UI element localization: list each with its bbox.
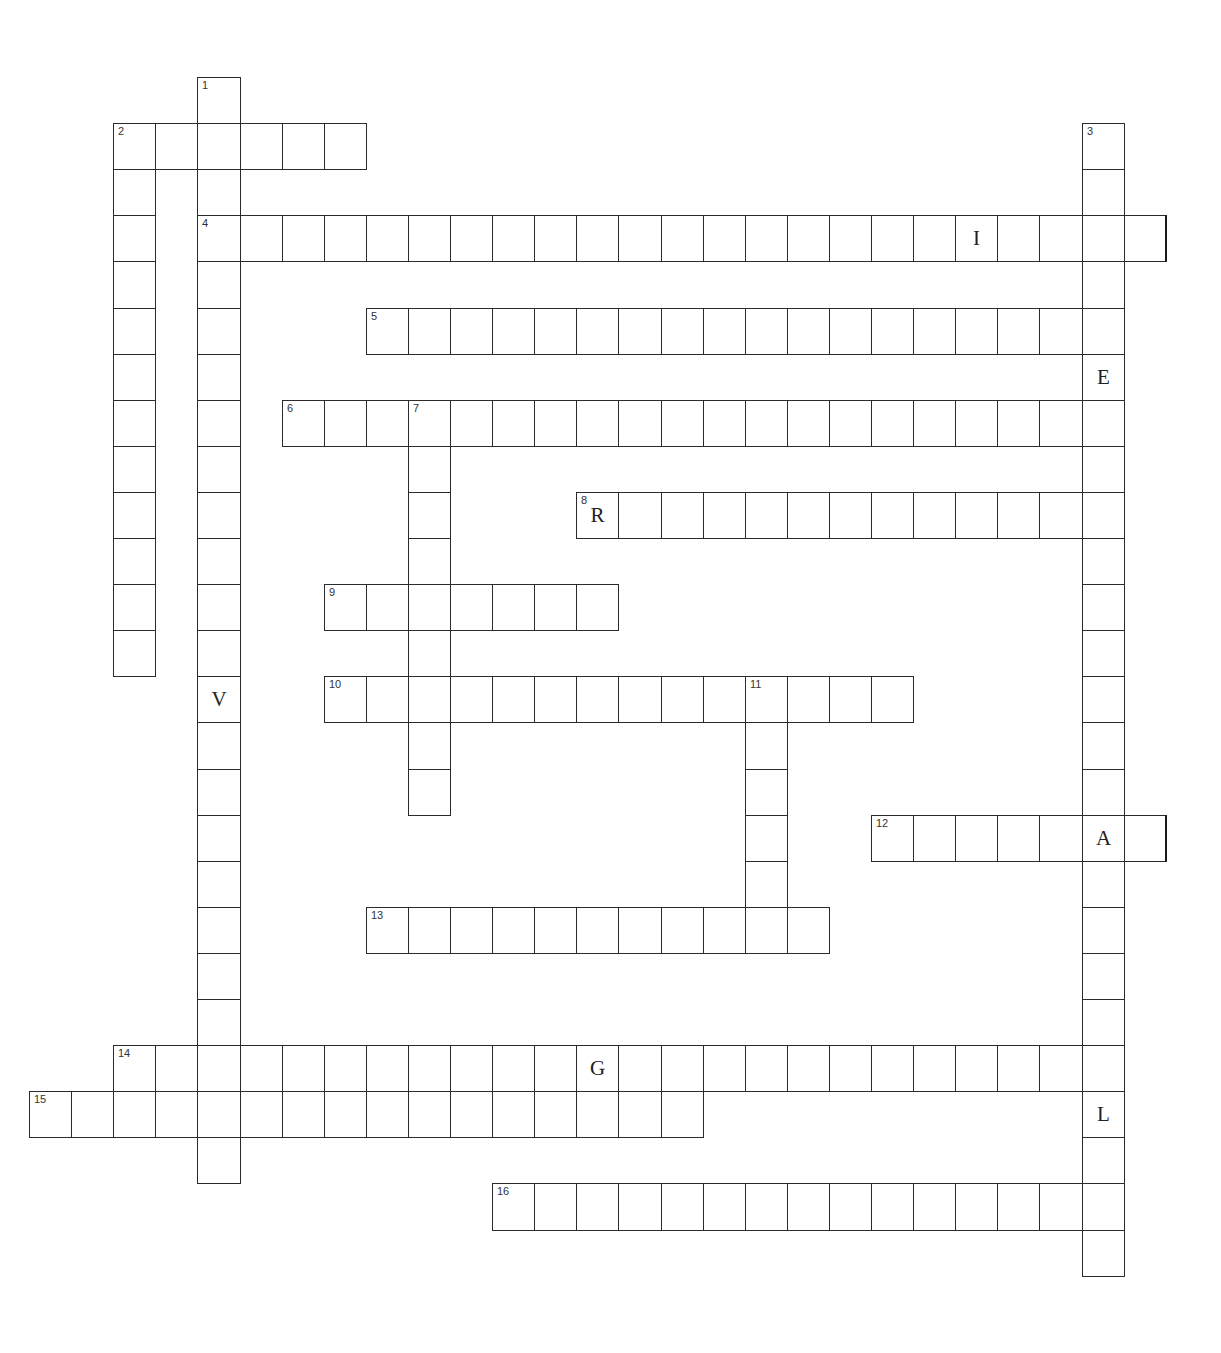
crossword-cell[interactable] [1082,769,1125,816]
crossword-cell[interactable] [1082,953,1125,1000]
crossword-cell[interactable] [955,1045,998,1092]
crossword-cell[interactable] [408,492,451,539]
crossword-cell[interactable] [703,676,746,723]
crossword-cell[interactable] [534,907,577,954]
crossword-cell[interactable] [197,722,241,770]
crossword-cell[interactable] [366,400,409,447]
crossword-cell[interactable]: 10 [324,676,367,723]
crossword-cell[interactable] [787,676,830,723]
crossword-cell[interactable] [197,261,241,309]
crossword-cell[interactable] [197,584,241,631]
crossword-cell[interactable] [1082,400,1125,447]
crossword-cell[interactable] [955,492,998,539]
crossword-cell[interactable] [745,1045,788,1092]
crossword-cell[interactable] [871,400,914,447]
crossword-cell[interactable] [408,446,451,493]
crossword-cell[interactable] [450,308,493,355]
crossword-cell[interactable] [703,215,746,262]
crossword-cell[interactable] [450,1091,493,1138]
crossword-cell[interactable] [1082,907,1125,954]
crossword-cell[interactable]: 16 [492,1183,535,1231]
crossword-cell[interactable]: 9 [324,584,367,631]
crossword-cell[interactable] [661,308,704,355]
crossword-cell[interactable] [955,400,998,447]
crossword-cell[interactable] [1082,169,1125,216]
crossword-cell[interactable] [618,492,662,539]
crossword-cell[interactable] [534,1183,577,1231]
crossword-cell[interactable] [1082,999,1125,1046]
crossword-cell[interactable] [829,215,872,262]
crossword-cell[interactable] [408,584,451,631]
crossword-cell[interactable] [240,1045,283,1092]
crossword-cell[interactable]: 1 [197,77,241,124]
crossword-cell[interactable] [1039,1183,1083,1231]
crossword-cell[interactable]: V [197,676,241,723]
crossword-cell[interactable] [576,584,619,631]
crossword-cell[interactable] [155,1091,198,1138]
crossword-cell[interactable] [408,907,451,954]
crossword-cell[interactable] [829,1045,872,1092]
crossword-cell[interactable] [913,308,956,355]
crossword-cell[interactable] [1082,630,1125,677]
crossword-cell[interactable] [787,308,830,355]
crossword-cell[interactable] [450,676,493,723]
crossword-cell[interactable] [324,215,367,262]
crossword-cell[interactable] [913,400,956,447]
crossword-cell[interactable] [450,215,493,262]
crossword-cell[interactable] [534,308,577,355]
crossword-cell[interactable]: 7 [408,400,451,447]
crossword-cell[interactable] [197,538,241,585]
crossword-cell[interactable] [113,169,156,216]
crossword-cell[interactable] [576,907,619,954]
crossword-cell[interactable] [113,308,156,355]
crossword-cell[interactable] [997,815,1040,862]
crossword-cell[interactable] [745,861,788,908]
crossword-cell[interactable] [787,907,830,954]
crossword-cell[interactable] [534,676,577,723]
crossword-cell[interactable] [366,1045,409,1092]
crossword-cell[interactable]: 6 [282,400,325,447]
crossword-cell[interactable] [913,492,956,539]
crossword-cell[interactable] [197,1045,241,1092]
crossword-cell[interactable] [113,446,156,493]
crossword-cell[interactable] [661,676,704,723]
crossword-cell[interactable]: 11 [745,676,788,723]
crossword-cell[interactable] [113,492,156,539]
crossword-cell[interactable] [1039,308,1083,355]
crossword-cell[interactable]: A [1082,815,1125,862]
crossword-cell[interactable] [871,492,914,539]
crossword-cell[interactable] [113,538,156,585]
crossword-cell[interactable] [618,1183,662,1231]
crossword-cell[interactable] [197,769,241,816]
crossword-cell[interactable] [282,1091,325,1138]
crossword-cell[interactable] [1124,815,1167,862]
crossword-cell[interactable] [661,1183,704,1231]
crossword-cell[interactable] [745,400,788,447]
crossword-cell[interactable] [1082,215,1125,262]
crossword-cell[interactable] [408,215,451,262]
crossword-cell[interactable] [1082,1045,1125,1092]
crossword-cell[interactable]: 8R [576,492,619,539]
crossword-cell[interactable] [450,1045,493,1092]
crossword-cell[interactable] [197,169,241,216]
crossword-cell[interactable] [955,1183,998,1231]
crossword-cell[interactable] [1124,215,1167,262]
crossword-cell[interactable] [1082,308,1125,355]
crossword-cell[interactable] [997,215,1040,262]
crossword-cell[interactable] [787,1045,830,1092]
crossword-cell[interactable] [197,861,241,908]
crossword-cell[interactable] [197,999,241,1046]
crossword-cell[interactable] [576,676,619,723]
crossword-cell[interactable] [997,308,1040,355]
crossword-cell[interactable] [829,308,872,355]
crossword-cell[interactable] [240,215,283,262]
crossword-cell[interactable] [618,907,662,954]
crossword-cell[interactable] [113,354,156,401]
crossword-cell[interactable]: 15 [29,1091,72,1138]
crossword-cell[interactable] [703,308,746,355]
crossword-cell[interactable] [324,1091,367,1138]
crossword-cell[interactable] [534,584,577,631]
crossword-cell[interactable]: G [576,1045,619,1092]
crossword-cell[interactable] [997,492,1040,539]
crossword-cell[interactable] [408,1091,451,1138]
